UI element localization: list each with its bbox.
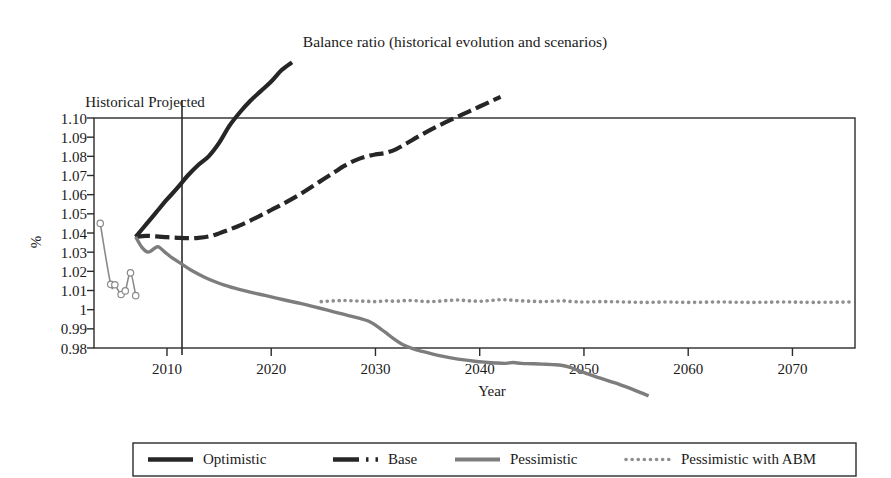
- y-tick-label: 1.07: [61, 168, 88, 184]
- y-tick-label: 1.03: [61, 245, 87, 261]
- legend-entries: OptimisticBasePessimisticPessimistic wit…: [148, 451, 816, 467]
- y-tick-label: 0.98: [61, 341, 87, 357]
- x-tick-label: 2020: [256, 361, 286, 377]
- y-tick-label: 1.08: [61, 149, 87, 165]
- y-tick-label: 1.01: [61, 283, 87, 299]
- series-layer: [97, 62, 851, 396]
- y-tick-label: 0.99: [61, 321, 87, 337]
- y-tick-label: 1.10: [61, 111, 87, 127]
- series-line-pessimistic-with-abm: [321, 300, 851, 303]
- historical-data-marker: [97, 220, 103, 226]
- y-tick-label: 1.04: [61, 226, 88, 242]
- x-tick-label: 2010: [152, 361, 182, 377]
- y-axis-ticks: 1.101.091.081.071.061.051.041.031.021.01…: [61, 111, 94, 357]
- legend-label-base: Base: [388, 451, 418, 467]
- balance-ratio-chart: Balance ratio (historical evolution and …: [0, 0, 891, 478]
- historical-data-marker: [127, 270, 133, 276]
- y-tick-label: 1: [80, 302, 88, 318]
- x-tick-label: 2070: [777, 361, 807, 377]
- region-label-historical: Historical: [85, 94, 144, 110]
- legend-label-optimistic: Optimistic: [203, 451, 267, 467]
- y-axis-label: %: [28, 236, 44, 249]
- historical-data-marker: [112, 282, 118, 288]
- y-tick-label: 1.09: [61, 130, 87, 146]
- chart-container: Balance ratio (historical evolution and …: [0, 0, 891, 478]
- legend-label-pessimistic: Pessimistic: [510, 451, 578, 467]
- historical-data-marker: [122, 288, 128, 294]
- historical-data-marker: [132, 292, 138, 298]
- chart-title: Balance ratio (historical evolution and …: [303, 33, 607, 51]
- x-tick-label: 2060: [673, 361, 703, 377]
- legend-label-pessimistic-with-abm: Pessimistic with ABM: [681, 451, 816, 467]
- x-axis-label: Year: [478, 383, 506, 399]
- y-tick-label: 1.02: [61, 264, 87, 280]
- y-tick-label: 1.05: [61, 206, 87, 222]
- region-label-projected: Projected: [148, 94, 205, 110]
- y-tick-label: 1.06: [61, 187, 88, 203]
- plot-frame: [94, 118, 855, 348]
- period-region-labels: HistoricalProjected: [85, 94, 205, 110]
- x-tick-label: 2030: [360, 361, 390, 377]
